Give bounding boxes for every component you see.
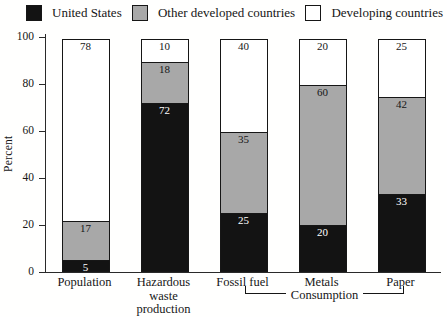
segment-population-developing-countries: 78: [62, 39, 110, 222]
segment-value-label: 5: [63, 262, 109, 273]
legend-swatch-developing-countries: [305, 5, 321, 21]
x-axis-label-paper: Paper: [361, 276, 440, 317]
segment-value-label: 18: [142, 64, 188, 75]
segment-fossil-fuel-united-states: 25: [220, 213, 268, 272]
y-tick: [39, 225, 45, 226]
legend-label: Developing countries: [331, 5, 443, 21]
legend-item-developing-countries: Developing countries: [305, 5, 443, 21]
segment-value-label: 25: [221, 215, 267, 226]
segment-hazardous-waste-production-developing-countries: 10: [141, 39, 189, 63]
segment-value-label: 35: [221, 134, 267, 145]
plot-area: 51778721810253540206020334225 0204060801…: [45, 37, 441, 273]
legend-label: Other developed countries: [158, 5, 295, 21]
bracket-left-tick: [245, 286, 253, 294]
segment-paper-other-developed-countries: 42: [378, 97, 426, 196]
segment-metals-developing-countries: 20: [299, 39, 347, 86]
segment-value-label: 10: [142, 41, 188, 52]
bars-container: 51778721810253540206020334225: [46, 37, 441, 272]
segment-population-united-states: 5: [62, 260, 110, 272]
segment-value-label: 20: [300, 41, 346, 52]
bar-slot-metals: 206020: [283, 37, 362, 272]
segment-value-label: 20: [300, 227, 346, 238]
bar-slot-population: 51778: [46, 37, 125, 272]
bracket-label: Consumption: [286, 289, 363, 297]
y-tick-label: 40: [2, 171, 34, 184]
y-tick: [39, 37, 45, 38]
segment-value-label: 25: [379, 41, 425, 52]
bar-paper: 334225: [378, 37, 426, 272]
y-tick: [39, 272, 45, 273]
bar-fossil-fuel: 253540: [220, 37, 268, 272]
bar-slot-fossil-fuel: 253540: [204, 37, 283, 272]
x-axis-label-hazardous-waste-production: Hazardous waste production: [124, 276, 203, 317]
y-tick-label: 60: [2, 124, 34, 137]
segment-value-label: 40: [221, 41, 267, 52]
y-tick-label: 100: [2, 30, 34, 43]
segment-hazardous-waste-production-other-developed-countries: 18: [141, 62, 189, 104]
legend-item-other-developed-countries: Other developed countries: [132, 5, 295, 21]
segment-hazardous-waste-production-united-states: 72: [141, 103, 189, 272]
bar-slot-paper: 334225: [362, 37, 441, 272]
legend: United StatesOther developed countriesDe…: [26, 5, 443, 21]
x-axis-label-population: Population: [45, 276, 124, 317]
segment-metals-other-developed-countries: 60: [299, 85, 347, 226]
legend-item-united-states: United States: [26, 5, 122, 21]
bracket-line-right: [363, 286, 396, 294]
y-tick: [39, 178, 45, 179]
segment-population-other-developed-countries: 17: [62, 221, 110, 261]
stacked-bar-chart-figure: United StatesOther developed countriesDe…: [0, 0, 447, 317]
y-axis-title: Percent: [2, 94, 18, 214]
y-tick: [39, 84, 45, 85]
bar-metals: 206020: [299, 37, 347, 272]
bracket-line-left: [253, 286, 286, 294]
bar-slot-hazardous-waste-production: 721810: [125, 37, 204, 272]
segment-value-label: 72: [142, 105, 188, 116]
segment-fossil-fuel-developing-countries: 40: [220, 39, 268, 133]
segment-metals-united-states: 20: [299, 225, 347, 272]
y-tick-label: 20: [2, 218, 34, 231]
segment-value-label: 42: [379, 99, 425, 110]
consumption-group-bracket: Consumption: [245, 286, 404, 294]
y-tick-label: 0: [2, 265, 34, 278]
segment-value-label: 60: [300, 87, 346, 98]
segment-value-label: 33: [379, 196, 425, 207]
segment-paper-developing-countries: 25: [378, 39, 426, 98]
bar-population: 51778: [62, 37, 110, 272]
bar-hazardous-waste-production: 721810: [141, 37, 189, 272]
legend-swatch-united-states: [26, 5, 42, 21]
y-tick-label: 80: [2, 77, 34, 90]
y-tick: [39, 131, 45, 132]
legend-label: United States: [52, 5, 122, 21]
legend-swatch-other-developed-countries: [132, 5, 148, 21]
x-axis-label-fossil-fuel: Fossil fuel: [203, 276, 282, 317]
bracket-right-tick: [396, 286, 404, 294]
segment-paper-united-states: 33: [378, 194, 426, 272]
segment-fossil-fuel-other-developed-countries: 35: [220, 132, 268, 214]
x-axis-labels: PopulationHazardous waste productionFoss…: [45, 276, 440, 317]
segment-value-label: 78: [63, 41, 109, 52]
segment-value-label: 17: [63, 223, 109, 234]
